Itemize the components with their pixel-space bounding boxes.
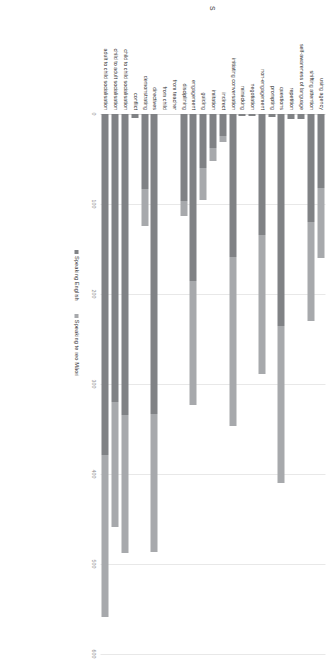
category-label: guiding — [199, 93, 206, 110]
bar-group[interactable] — [219, 114, 226, 142]
bar-group[interactable] — [248, 114, 255, 116]
category-label: child to child socialisation — [121, 49, 128, 110]
bar-group[interactable] — [287, 114, 294, 119]
bar-segment[interactable] — [317, 188, 324, 258]
bar-segment[interactable] — [101, 455, 108, 617]
bar-group[interactable] — [141, 114, 148, 226]
chart-legend: Speaking EnglishSpeaking te reo Māori — [73, 250, 79, 377]
bar-group[interactable] — [268, 114, 275, 117]
gridline — [100, 384, 325, 385]
bar-segment[interactable] — [297, 114, 304, 119]
bar-segment[interactable] — [189, 114, 196, 281]
bar-segment[interactable] — [307, 222, 314, 321]
legend-item[interactable]: Speaking te reo Māori — [73, 314, 79, 377]
bar-segment[interactable] — [307, 114, 314, 222]
legend-label: Speaking te reo Māori — [73, 320, 79, 377]
bar-segment[interactable] — [141, 114, 148, 189]
bar-segment[interactable] — [121, 415, 128, 554]
bar-group[interactable] — [317, 114, 324, 258]
category-label: conflict — [131, 93, 138, 110]
bar-segment[interactable] — [277, 114, 284, 326]
bar-segment[interactable] — [150, 414, 157, 553]
bar-group[interactable] — [277, 114, 284, 483]
legend-label: Speaking English — [73, 256, 79, 301]
gridline — [100, 654, 325, 655]
bar-segment[interactable] — [141, 189, 148, 227]
bar-group[interactable] — [121, 114, 128, 553]
bar-segment[interactable] — [199, 168, 206, 200]
category-label: adult to child socialisation — [101, 49, 108, 110]
bar-segment[interactable] — [238, 114, 245, 116]
bar-group[interactable] — [180, 114, 187, 216]
category-label: self-awareness of language — [297, 44, 304, 110]
bar-segment[interactable] — [199, 114, 206, 168]
bar-segment[interactable] — [258, 114, 265, 235]
bar-segment[interactable] — [189, 281, 196, 404]
legend-item[interactable]: Speaking English — [73, 250, 79, 301]
bar-group[interactable] — [238, 114, 245, 116]
tick-label: 600 — [90, 650, 96, 659]
category-label: engagement — [189, 80, 196, 110]
gridline — [100, 564, 325, 565]
tick-label: 500 — [90, 560, 96, 569]
bar-group[interactable] — [258, 114, 265, 374]
rotated-figure-wrapper: s using agencyshifting attentionself-awa… — [0, 0, 329, 664]
category-label: from teacher — [170, 80, 177, 110]
bar-group[interactable] — [189, 114, 196, 405]
bar-segment[interactable] — [209, 148, 216, 161]
bar-segment[interactable] — [180, 114, 187, 201]
category-label: using agency — [317, 78, 324, 110]
bar-group[interactable] — [209, 114, 216, 161]
tick-label: 300 — [90, 380, 96, 389]
bar-segment[interactable] — [258, 235, 265, 375]
category-label: questions — [277, 87, 284, 110]
bar-segment[interactable] — [209, 114, 216, 148]
bar-segment[interactable] — [277, 326, 284, 483]
category-axis-labels: using agencyshifting attentionself-aware… — [100, 0, 325, 112]
gridline — [100, 204, 325, 205]
square-icon — [74, 314, 78, 318]
bar-segment[interactable] — [101, 114, 108, 455]
bar-segment[interactable] — [248, 114, 255, 116]
category-label: initiating conversation — [229, 58, 236, 110]
bar-segment[interactable] — [219, 136, 226, 142]
chart-figure: s using agencyshifting attentionself-awa… — [0, 0, 329, 664]
square-icon — [74, 250, 78, 254]
category-label: prompting — [268, 86, 275, 110]
category-label: mimicking — [238, 86, 245, 110]
bar-segment[interactable] — [317, 114, 324, 188]
bar-segment[interactable] — [121, 114, 128, 415]
bar-group[interactable] — [150, 114, 157, 552]
bar-group[interactable] — [199, 114, 206, 200]
category-label: repetition — [287, 88, 294, 110]
category-label: shifting attention — [307, 71, 314, 110]
bar-group[interactable] — [229, 114, 236, 426]
tick-label: 200 — [90, 290, 96, 299]
value-axis-ticks: 0100200300400500600 — [82, 114, 96, 654]
tick-label: 0 — [90, 113, 96, 116]
gridline — [100, 474, 325, 475]
bar-group[interactable] — [131, 114, 138, 118]
bar-segment[interactable] — [219, 114, 226, 136]
bar-group[interactable] — [111, 114, 118, 527]
bar-group[interactable] — [297, 114, 304, 119]
category-label: imitation — [209, 90, 216, 110]
category-label: from child — [160, 87, 167, 110]
category-label: demonstrating — [141, 76, 148, 110]
bar-segment[interactable] — [229, 114, 236, 257]
bar-segment[interactable] — [111, 402, 118, 527]
gridline — [100, 294, 325, 295]
category-label: child to adult socialisation — [111, 49, 118, 110]
bar-segment[interactable] — [131, 114, 138, 118]
bar-group[interactable] — [101, 114, 108, 617]
tick-label: 400 — [90, 470, 96, 479]
category-label: negotiation — [248, 84, 255, 110]
bar-segment[interactable] — [287, 114, 294, 119]
bar-segment[interactable] — [180, 201, 187, 215]
bar-segment[interactable] — [268, 114, 275, 117]
bar-segment[interactable] — [150, 114, 157, 414]
bar-segment[interactable] — [111, 114, 118, 402]
category-label: disciplining — [180, 83, 187, 110]
bar-segment[interactable] — [229, 257, 236, 426]
bar-group[interactable] — [307, 114, 314, 321]
